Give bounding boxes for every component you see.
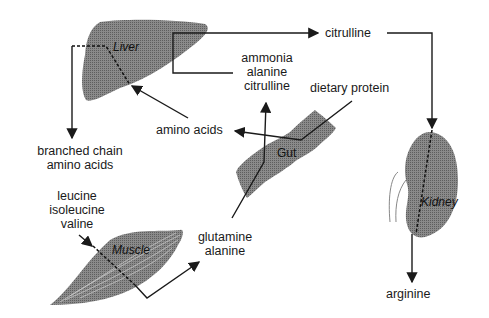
muscle-inputs-label: leucine isoleucine valine (42, 189, 112, 231)
arginine-label: arginine (386, 287, 430, 301)
amino-acids-label: amino acids (156, 123, 223, 137)
valine-text: valine (42, 217, 112, 231)
dietary-protein-label: dietary protein (310, 81, 389, 95)
muscle-outputs-label: glutamine alanine (192, 230, 258, 258)
kidney-shape (405, 132, 458, 237)
ureter-line (389, 172, 398, 222)
liver-shape (82, 20, 208, 101)
glutamine-text: glutamine (192, 230, 258, 244)
bcaa-line-2: amino acids (30, 158, 130, 172)
liver-outputs-label: ammonia alanine citrulline (234, 51, 300, 93)
ureter-line-2 (396, 180, 406, 222)
citrulline-label: citrulline (325, 26, 371, 40)
kidney-label: Kidney (421, 195, 458, 209)
muscle-label: Muscle (112, 243, 150, 257)
citrulline-text: citrulline (234, 79, 300, 93)
bcaa-line-1: branched chain (30, 144, 130, 158)
alanine-out-text: alanine (192, 244, 258, 258)
isoleucine-text: isoleucine (42, 203, 112, 217)
bcaa-label: branched chain amino acids (30, 144, 130, 172)
liver-label: Liver (113, 40, 139, 54)
leucine-text: leucine (42, 189, 112, 203)
gut-label: Gut (277, 146, 296, 160)
ammonia-text: ammonia (234, 51, 300, 65)
alanine-text: alanine (234, 65, 300, 79)
